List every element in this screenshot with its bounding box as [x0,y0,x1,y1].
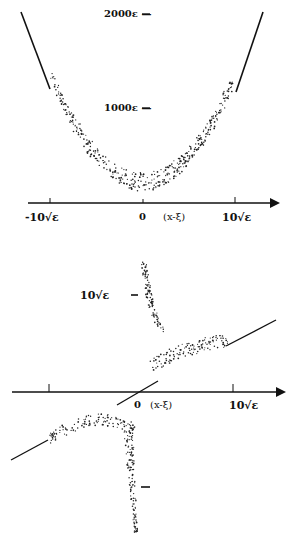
plot-canvas [0,0,288,545]
top-y-label-1000: 1000ε — [104,103,151,113]
top-x-label-var: (x-ξ) [163,212,185,222]
bot-x-label-pos: 10√ε [229,400,258,411]
bot-lower-asymptote [11,440,48,460]
top-y-label-2000: 2000ε — [104,9,151,19]
bot-x-label-zero: 0 [134,400,141,410]
top-left-asymptote [21,12,50,89]
scatter-points [49,73,233,533]
top-x-label-zero: 0 [139,212,146,222]
top-axis-arrow [270,198,280,208]
bot-axis-arrow [276,387,286,397]
bot-upper-asymptote [226,320,276,346]
bot-x-label-var: (x-ξ) [150,400,172,410]
top-right-asymptote [236,12,263,92]
top-x-label-pos: 10√ε [222,212,251,223]
top-x-label-neg: -10√ε [25,212,59,223]
bot-y-label-upper: 10√ε [80,290,109,301]
